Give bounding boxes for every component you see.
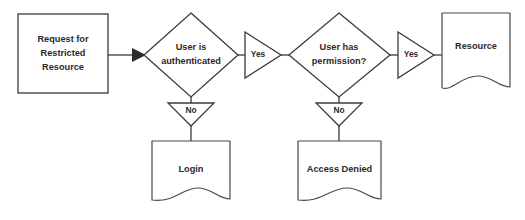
perm-label-line2: permission? bbox=[312, 56, 367, 66]
login-label: Login bbox=[178, 164, 203, 174]
perm-yes-text: Yes bbox=[404, 49, 419, 59]
request-label-line2: Restricted bbox=[41, 48, 86, 58]
resource-label: Resource bbox=[455, 41, 497, 51]
edge-label-auth-yes: Yes bbox=[245, 32, 281, 78]
flowchart-canvas: Request for Restricted Resource User is … bbox=[0, 0, 525, 220]
access-denied-label: Access Denied bbox=[307, 164, 372, 174]
edge-label-perm-yes: Yes bbox=[398, 32, 434, 78]
auth-no-text: No bbox=[185, 105, 196, 115]
request-label-line1: Request for bbox=[37, 34, 88, 44]
auth-yes-text: Yes bbox=[251, 49, 266, 59]
node-login-document[interactable]: Login bbox=[152, 141, 230, 200]
perm-no-text: No bbox=[333, 105, 344, 115]
node-user-is-authenticated-decision[interactable]: User is authenticated bbox=[144, 13, 238, 97]
auth-diamond-shape bbox=[144, 13, 238, 97]
flowchart-svg: Request for Restricted Resource User is … bbox=[0, 0, 525, 220]
node-access-denied-document[interactable]: Access Denied bbox=[298, 141, 381, 200]
node-resource-document[interactable]: Resource bbox=[442, 13, 510, 88]
request-label-line3: Resource bbox=[42, 62, 84, 72]
perm-label-line1: User has bbox=[320, 42, 359, 52]
node-user-has-permission-decision[interactable]: User has permission? bbox=[289, 13, 390, 97]
node-request-for-restricted-resource[interactable]: Request for Restricted Resource bbox=[18, 14, 108, 93]
auth-label-line1: User is bbox=[176, 42, 207, 52]
edge-label-auth-no: No bbox=[168, 103, 214, 126]
edge-label-perm-no: No bbox=[316, 103, 362, 126]
auth-label-line2: authenticated bbox=[161, 56, 221, 66]
perm-diamond-shape bbox=[289, 13, 390, 97]
